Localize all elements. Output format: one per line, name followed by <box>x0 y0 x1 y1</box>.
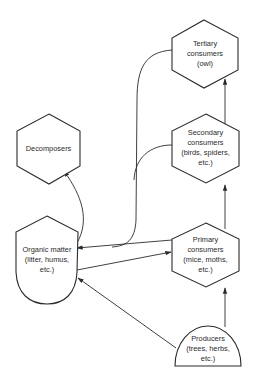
label-line: etc.) <box>172 265 239 275</box>
edge-tertiary-to-organic <box>112 50 172 247</box>
edges <box>64 50 225 348</box>
edge-secondary-to-organic <box>134 145 172 180</box>
label-line: consumers <box>172 49 238 59</box>
label-line: etc.) <box>14 265 80 275</box>
organic-matter-label: Organic matter (litter, humus, etc.) <box>14 245 80 275</box>
edge-primary-to-organic <box>77 240 172 248</box>
label-line: (birds, spiders, <box>172 148 239 158</box>
label-line: Decomposers <box>17 144 80 154</box>
secondary-consumers-label: Secondary consumers (birds, spiders, etc… <box>172 128 239 168</box>
label-line: consumers <box>172 245 239 255</box>
primary-consumers-label: Primary consumers (mice, moths, etc.) <box>172 235 239 275</box>
label-line: Secondary <box>172 128 239 138</box>
edge-organic-to-primary <box>77 252 171 270</box>
tertiary-consumers-label: Tertiary consumers (owl) <box>172 39 238 69</box>
label-line: etc.) <box>175 354 241 364</box>
label-line: Primary <box>172 235 239 245</box>
food-web-diagram: Tertiary consumers (owl) Secondary consu… <box>0 0 258 382</box>
label-line: consumers <box>172 138 239 148</box>
label-line: (owl) <box>172 59 238 69</box>
decomposers-label: Decomposers <box>17 144 80 154</box>
label-line: Producers <box>175 334 241 344</box>
label-line: (mice, moths, <box>172 255 239 265</box>
producers-label: Producers (trees, herbs, etc.) <box>175 334 241 364</box>
label-line: (litter, humus, <box>14 255 80 265</box>
label-line: Organic matter <box>14 245 80 255</box>
label-line: etc.) <box>172 158 239 168</box>
label-line: Tertiary <box>172 39 238 49</box>
label-line: (trees, herbs, <box>175 344 241 354</box>
edge-producers-to-organic <box>78 278 176 348</box>
